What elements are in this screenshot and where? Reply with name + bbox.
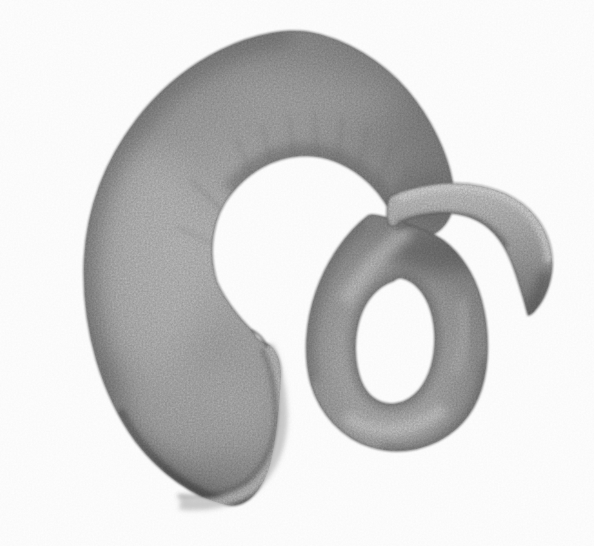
paper-grain — [0, 0, 594, 546]
artwork-figure: Pencil drawing of a thick coiled horn-li… — [0, 0, 594, 546]
page: Pencil drawing of a thick coiled horn-li… — [0, 0, 594, 546]
pencil-drawing-svg: Pencil drawing of a thick coiled horn-li… — [0, 0, 594, 546]
